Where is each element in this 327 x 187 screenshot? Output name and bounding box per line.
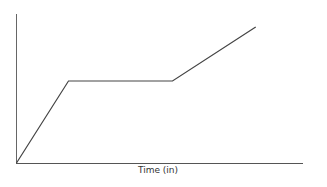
x-axis-label: Time (in) [0,165,316,175]
data-line [17,27,256,163]
chart-canvas [0,0,327,187]
